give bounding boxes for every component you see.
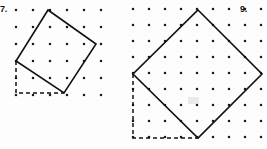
grid-dot bbox=[180, 40, 182, 42]
grid-dot bbox=[260, 8, 262, 10]
grid-dot bbox=[66, 26, 68, 28]
paper-smudge-mark bbox=[188, 97, 199, 104]
grid-dot bbox=[32, 9, 34, 11]
grid-dot bbox=[196, 24, 198, 26]
grid-dot bbox=[244, 24, 246, 26]
grid-dot bbox=[212, 104, 214, 106]
grid-dot bbox=[196, 40, 198, 42]
dot-grid-7 bbox=[15, 9, 102, 96]
grid-dot bbox=[66, 94, 68, 96]
grid-dot bbox=[164, 120, 166, 122]
grid-dot bbox=[180, 56, 182, 58]
grid-dot bbox=[100, 94, 102, 96]
grid-dot bbox=[83, 9, 85, 11]
grid-dot bbox=[228, 120, 230, 122]
grid-dot bbox=[180, 72, 182, 74]
grid-dot bbox=[148, 8, 150, 10]
grid-dot bbox=[164, 72, 166, 74]
grid-dot bbox=[49, 60, 51, 62]
grid-dot bbox=[132, 8, 134, 10]
grid-dot bbox=[260, 40, 262, 42]
grid-dot bbox=[228, 24, 230, 26]
grid-dot bbox=[260, 120, 262, 122]
grid-dot bbox=[196, 56, 198, 58]
grid-dot bbox=[15, 26, 17, 28]
grid-dot bbox=[228, 88, 230, 90]
grid-dot bbox=[228, 136, 230, 138]
grid-dot bbox=[32, 26, 34, 28]
grid-dot bbox=[228, 56, 230, 58]
grid-dot bbox=[148, 120, 150, 122]
grid-dot bbox=[148, 72, 150, 74]
dot-grid-9 bbox=[132, 8, 262, 138]
grid-dot bbox=[32, 60, 34, 62]
grid-dot bbox=[164, 8, 166, 10]
grid-dot bbox=[49, 26, 51, 28]
grid-dot bbox=[196, 104, 198, 106]
grid-dot bbox=[100, 77, 102, 79]
grid-dot bbox=[49, 94, 51, 96]
grid-dot bbox=[32, 77, 34, 79]
grid-dot bbox=[244, 136, 246, 138]
grid-dot bbox=[180, 8, 182, 10]
grid-dot bbox=[212, 40, 214, 42]
grid-dot bbox=[244, 8, 246, 10]
figure-7-drawing bbox=[0, 0, 130, 149]
grid-dot bbox=[83, 26, 85, 28]
grid-dot bbox=[148, 40, 150, 42]
grid-dot bbox=[228, 72, 230, 74]
grid-dot bbox=[180, 104, 182, 106]
grid-dot bbox=[32, 94, 34, 96]
grid-dot bbox=[100, 26, 102, 28]
grid-dot bbox=[212, 8, 214, 10]
grid-dot bbox=[244, 40, 246, 42]
grid-dot bbox=[244, 120, 246, 122]
grid-dot bbox=[132, 24, 134, 26]
grid-dot bbox=[212, 136, 214, 138]
grid-dot bbox=[164, 24, 166, 26]
grid-dot bbox=[212, 72, 214, 74]
grid-dot bbox=[260, 136, 262, 138]
grid-dot bbox=[83, 43, 85, 45]
grid-dot bbox=[49, 77, 51, 79]
grid-dot bbox=[83, 94, 85, 96]
grid-dot bbox=[212, 88, 214, 90]
grid-dot bbox=[132, 120, 134, 122]
grid-dot bbox=[244, 104, 246, 106]
grid-dot bbox=[164, 88, 166, 90]
grid-dot bbox=[15, 94, 17, 96]
grid-dot bbox=[260, 104, 262, 106]
grid-dot bbox=[132, 40, 134, 42]
grid-dot bbox=[228, 8, 230, 10]
grid-dot bbox=[83, 77, 85, 79]
grid-dot bbox=[196, 120, 198, 122]
grid-dot bbox=[164, 56, 166, 58]
grid-dot bbox=[148, 104, 150, 106]
grid-dot bbox=[132, 56, 134, 58]
figure-9-drawing bbox=[130, 0, 267, 149]
grid-dot bbox=[148, 24, 150, 26]
grid-dot bbox=[32, 43, 34, 45]
grid-dot bbox=[180, 88, 182, 90]
grid-dot bbox=[164, 136, 166, 138]
tilted-square-outline-7 bbox=[16, 10, 96, 93]
grid-dot bbox=[15, 9, 17, 11]
grid-dot bbox=[260, 24, 262, 26]
grid-dot bbox=[260, 88, 262, 90]
grid-dot bbox=[100, 60, 102, 62]
grid-dot bbox=[49, 43, 51, 45]
grid-dot bbox=[66, 60, 68, 62]
grid-dot bbox=[100, 9, 102, 11]
grid-dot bbox=[196, 72, 198, 74]
grid-dot bbox=[260, 56, 262, 58]
figure-problem-7: 7. bbox=[0, 0, 130, 149]
grid-dot bbox=[15, 43, 17, 45]
grid-dot bbox=[100, 43, 102, 45]
grid-dot bbox=[66, 77, 68, 79]
grid-dot bbox=[244, 72, 246, 74]
grid-dot bbox=[196, 88, 198, 90]
worksheet-canvas: 7. 9. bbox=[0, 0, 267, 149]
grid-dot bbox=[66, 9, 68, 11]
figure-problem-9: 9. bbox=[130, 0, 267, 149]
grid-dot bbox=[66, 43, 68, 45]
